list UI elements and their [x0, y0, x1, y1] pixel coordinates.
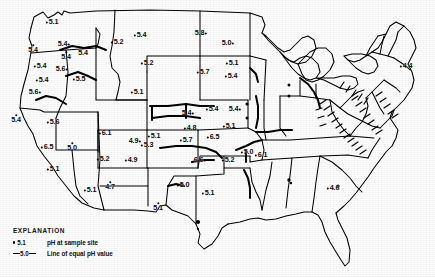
sample-site-label: 6.5 — [207, 133, 219, 140]
sample-site-label: 4.6 — [327, 184, 339, 191]
sample-site-dot-icon — [15, 114, 17, 116]
equal-ph-contour-lines — [36, 46, 320, 198]
sample-site-dot-icon — [157, 202, 159, 204]
sample-site-value: 4.8 — [187, 123, 196, 132]
sample-site-value: 5.7 — [183, 135, 192, 144]
sample-site-dot-icon — [73, 78, 75, 80]
sample-site-label: 5.1 — [47, 165, 59, 172]
sample-site-dot-icon — [222, 159, 224, 161]
sample-site-dot-icon — [82, 47, 84, 49]
sample-site-label: 4.4 — [400, 62, 412, 69]
sample-site-dot-icon — [184, 127, 186, 129]
sample-site-dot-icon — [32, 44, 34, 46]
sample-site-label: 5.4 — [28, 44, 37, 54]
sample-site-label: 5.4 — [61, 51, 70, 61]
sample-site-dot-icon — [192, 112, 194, 114]
sample-site-dot-icon — [148, 135, 150, 137]
sample-site-label: 5.1 — [202, 189, 214, 196]
sample-site-label: 5.2 — [222, 156, 234, 163]
sample-site-label: 5.6 — [29, 88, 41, 95]
sample-site-label: 5.0 — [67, 142, 76, 152]
sample-site-value: 5.6 — [29, 87, 38, 96]
sample-site-value: 5.2 — [225, 155, 234, 164]
sample-site-label: 5.1 — [148, 132, 160, 139]
sample-site-dot-icon — [109, 181, 111, 183]
sample-site-value: 5.4 — [37, 61, 46, 70]
sample-site-label: 5.4 — [78, 47, 87, 57]
legend-row-contour-line: 5.0 Line of equal pH value — [13, 250, 113, 257]
contour-line-icon-right — [29, 253, 36, 254]
legend-desc-sample-site: pH at sample site — [47, 239, 98, 246]
sample-site-value: 6.1 — [102, 128, 111, 137]
sample-site-value: 5.4 — [229, 104, 238, 113]
sample-site-value: 4.9 — [129, 136, 138, 145]
legend-key-line-label: 5.0 — [20, 250, 29, 257]
sample-site-label: 5.4 — [182, 109, 194, 116]
sample-site-label: 5.0 — [222, 39, 234, 46]
sample-site-dot-icon — [46, 21, 48, 23]
sample-site-value: 5.4 — [39, 75, 48, 84]
sample-site-dot-icon — [239, 108, 241, 110]
sample-site-value: 5.1 — [49, 17, 58, 26]
map-legend: EXPLANATION 5.1 pH at sample site 5.0 Li… — [13, 227, 113, 257]
sample-site-label: 4.7 — [105, 181, 114, 191]
sample-site-label: 5.1 — [84, 186, 96, 193]
sample-site-label: 5.7 — [197, 68, 209, 75]
sample-site-dot-icon — [13, 241, 15, 243]
sample-site-dot-icon — [125, 159, 127, 161]
sample-site-value: 5.1 — [134, 87, 143, 96]
sample-site-value: 5.6 — [56, 64, 65, 73]
sample-site-label: 6.6 — [194, 156, 206, 163]
sample-site-dot-icon — [177, 184, 179, 186]
sample-site-dot-icon — [134, 34, 136, 36]
sample-site-label: 5.4 — [229, 105, 241, 112]
sample-site-label: 6.1 — [99, 129, 111, 136]
sample-site-value: 4.6 — [330, 183, 339, 192]
legend-title: EXPLANATION — [13, 227, 113, 234]
sample-site-label: 5.1 — [46, 18, 58, 25]
sample-site-dot-icon — [84, 189, 86, 191]
sample-site-label: 5.5 — [73, 75, 85, 82]
sample-site-value: 5.1 — [153, 204, 162, 213]
sample-site-label: 5.1 — [226, 59, 238, 66]
sample-site-dot-icon — [66, 68, 68, 70]
sample-site-label: 5.4 — [34, 62, 46, 69]
sample-site-label: 5.4 — [58, 40, 70, 47]
sample-site-dot-icon — [141, 144, 143, 146]
sample-site-value: 5.6 — [50, 117, 59, 126]
sample-site-label: 5.0 — [177, 181, 189, 188]
sample-site-dot-icon — [111, 41, 113, 43]
sample-site-dot-icon — [225, 75, 227, 77]
sample-site-value: 5.1 — [226, 121, 235, 130]
contour-line-icon — [13, 253, 20, 254]
sample-site-label: 5.0 — [241, 148, 253, 155]
sample-site-dot-icon — [400, 65, 402, 67]
sample-site-value: 5.5 — [76, 74, 85, 83]
sample-site-label: 5.2 — [97, 155, 109, 162]
sample-site-value: 5.4 — [28, 46, 37, 55]
sample-site-dot-icon — [141, 62, 143, 64]
sample-site-value: 5.0 — [67, 144, 76, 153]
sample-site-value: 5.4 — [182, 108, 191, 117]
sample-site-dot-icon — [39, 91, 41, 93]
sample-site-value: 6.5 — [210, 132, 219, 141]
sample-site-dot-icon — [131, 91, 133, 93]
legend-desc-contour-line: Line of equal pH value — [47, 250, 113, 257]
sample-site-value: 5.0 — [244, 147, 253, 156]
sample-site-value: 5.4 — [78, 49, 87, 58]
sample-site-dot-icon — [255, 154, 257, 156]
sample-site-dot-icon — [206, 108, 208, 110]
sample-site-value: 5.7 — [200, 67, 209, 76]
sample-site-value: 5.0 — [222, 38, 231, 47]
sample-site-dot-icon — [241, 151, 243, 153]
legend-key-dot: 5.1 — [13, 239, 47, 246]
sample-site-dot-icon — [204, 159, 206, 161]
sample-site-value: 5.4 — [61, 53, 70, 62]
sample-site-value: 5.1 — [151, 131, 160, 140]
sample-site-dot-icon — [232, 42, 234, 44]
sample-site-value: 5.1 — [205, 188, 214, 197]
sample-site-value: 5.2 — [114, 37, 123, 46]
sample-site-dot-icon — [197, 71, 199, 73]
sample-site-label: 5.2 — [111, 38, 123, 45]
sample-site-value: 5.4 — [58, 39, 67, 48]
